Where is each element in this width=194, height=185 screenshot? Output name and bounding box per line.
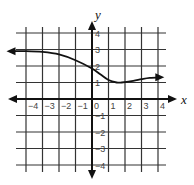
y-tick-label: −3 [95, 144, 105, 154]
function-curve [7, 47, 165, 83]
x-axis-right-arrow-icon [168, 95, 177, 103]
x-tick-label: 4 [160, 101, 165, 111]
x-axis-label: x [180, 92, 187, 107]
x-tick-label: 0 [94, 101, 99, 111]
x-tick-label: −1 [78, 101, 88, 111]
y-tick-label: −2 [95, 128, 105, 138]
x-tick-label: −2 [61, 101, 71, 111]
y-tick-label: −1 [95, 111, 105, 121]
x-tick-label: 3 [144, 101, 149, 111]
function-graph: −4−3−2−1012344321−1−2−3−4 x y [0, 0, 194, 185]
y-tick-label: 3 [95, 45, 100, 55]
axes [8, 21, 177, 179]
x-axis-left-arrow-icon [8, 95, 17, 103]
curve-left-arrow-icon [7, 47, 16, 55]
x-tick-label: −3 [45, 101, 55, 111]
y-axis-label: y [93, 7, 101, 22]
y-tick-label: 4 [95, 29, 100, 39]
y-tick-label: −4 [95, 161, 105, 171]
y-tick-label: 1 [95, 78, 100, 88]
y-axis-down-arrow-icon [88, 170, 96, 179]
curve-path [10, 51, 162, 83]
x-tick-label: 2 [127, 101, 132, 111]
curve-right-arrow-icon [155, 73, 164, 81]
x-tick-label: 1 [111, 101, 116, 111]
x-tick-label: −4 [28, 101, 38, 111]
